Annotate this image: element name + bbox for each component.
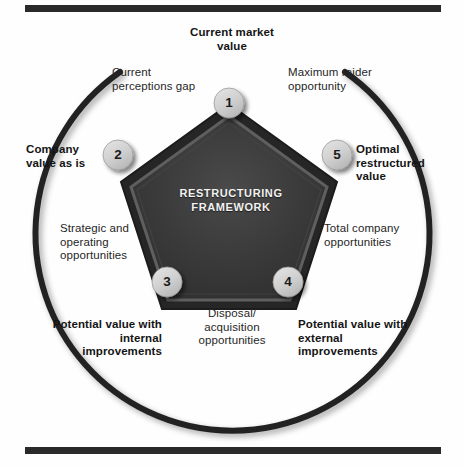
node-circle-1[interactable] [214,88,244,118]
label-total-company-opportunities: Total company opportunities [324,222,416,249]
center-title-line-2: FRAMEWORK [191,201,270,213]
label-company-value-as-is: Company value as is [26,143,104,170]
label-maximum-raider-opportunity: Maximum raider opportunity [288,66,378,93]
label-potential-value-external: Potential value with external improvemen… [298,318,410,359]
node-circle-2[interactable] [103,140,133,170]
framework-center-title: RESTRUCTURING FRAMEWORK [164,186,298,215]
label-strategic-operating-opportunities: Strategic and operating opportunities [60,222,152,263]
node-circle-4[interactable] [273,267,303,297]
figure-canvas: 1 2 3 4 5 RESTRUCTURING FRAMEWORK Curren… [0,0,464,467]
label-current-market-value: Current market value [176,26,288,53]
label-disposal-acquisition-opportunities: Disposal/ acquisition opportunities [186,307,278,348]
node-circle-3[interactable] [152,267,182,297]
label-current-perceptions-gap: Current perceptions gap [112,66,196,93]
node-circle-5[interactable] [322,140,352,170]
label-optimal-restructured-value: Optimal restructured value [356,143,456,184]
label-potential-value-internal: Potential value with internal improvemen… [52,318,162,359]
center-title-line-1: RESTRUCTURING [179,187,282,199]
